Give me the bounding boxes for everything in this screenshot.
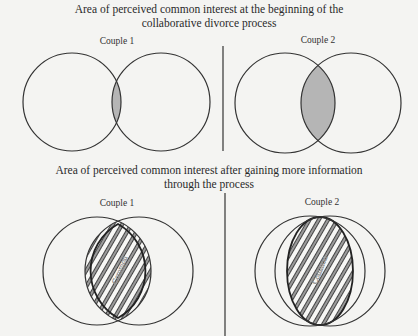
venn-diagrams: Common Common [0,0,418,336]
top-couple2-venn [235,53,401,153]
partner-b-circle [112,53,210,151]
top-couple1-venn [23,53,210,151]
partner-a-circle [23,53,121,151]
